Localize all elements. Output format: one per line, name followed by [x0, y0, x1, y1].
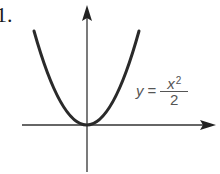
parabola-figure: 1. y = x2 2 [0, 0, 220, 174]
equation-sign: = [148, 82, 157, 99]
equation-fraction: x2 2 [160, 74, 188, 107]
figure-number: 1. [0, 2, 13, 28]
fraction-denominator: 2 [170, 92, 178, 107]
numerator-variable: x [167, 75, 175, 92]
numerator-exponent: 2 [176, 75, 182, 86]
equation-label: y = x2 2 [136, 74, 188, 107]
fraction-numerator: x2 [165, 74, 183, 91]
equation-lhs: y [136, 82, 144, 99]
